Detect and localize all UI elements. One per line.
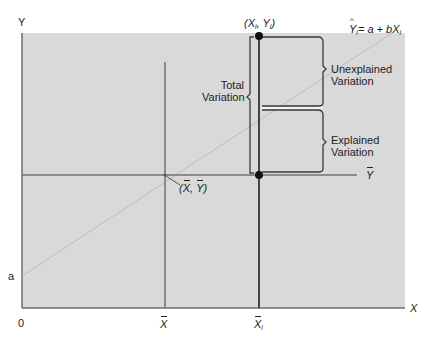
centroid-label: (X, Y) [179,182,207,194]
origin-label: 0 [18,317,24,329]
centroid-point [164,174,167,177]
x-axis-label: X [410,302,417,314]
total-variation-label: Total Variation [202,79,244,103]
mean-x-tick-label: X [160,318,167,330]
regression-equation: Yi= a + bXi [349,23,401,39]
xi-tick-label: Xi [254,318,263,334]
predicted-point [255,171,263,179]
explained-variation-label: Explained Variation [331,134,379,158]
observation-point [255,32,263,40]
observation-label: (Xi, Yi) [244,17,275,33]
intercept-label: a [8,270,14,282]
unexplained-variation-label: Unexplained Variation [331,63,392,87]
y-axis-label: Y [18,16,25,28]
mean-y-label: Y [366,169,373,181]
